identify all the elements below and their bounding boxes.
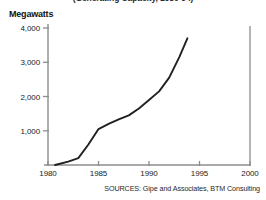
y-tick-label-4000: 4,000 [20,24,40,33]
chart-figure: (Generating Capacity, 1980-94) Megawatts… [0,0,266,200]
x-tick-label-1980: 1980 [39,169,57,178]
y-tick-label-3000: 3,000 [20,58,40,67]
plot-area: 4,000 3,000 2,000 1,000 1980 1985 1990 1… [0,0,266,200]
x-tick-label-1995: 1995 [191,169,209,178]
x-tick-label-1990: 1990 [140,169,158,178]
x-tick-label-1985: 1985 [90,169,108,178]
source-note: SOURCES: Gipe and Associates, BTM Consul… [104,184,260,193]
y-tick-label-1000: 1,000 [20,127,40,136]
data-line-wind-capacity [55,38,187,165]
y-tick-label-2000: 2,000 [20,93,40,102]
x-tick-label-2000: 2000 [241,169,259,178]
